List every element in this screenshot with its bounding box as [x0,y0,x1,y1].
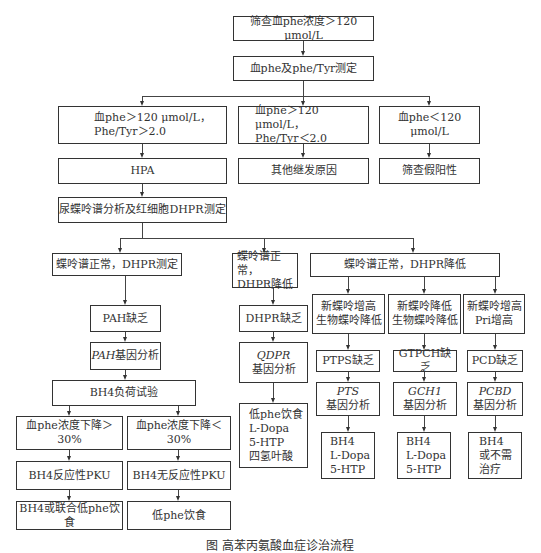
connector [348,333,349,345]
node-label: 新蝶呤降低 生物蝶呤降低 [392,300,458,328]
node-gch1-gene: GCH1基因分析 [393,382,457,416]
connector [413,238,414,248]
connector [348,276,349,289]
node-pcbd-gene: PCBD基因分析 [467,382,523,416]
node-label: BH4或联合低phe饮食 [17,502,122,530]
node-label: 筛查假阳性 [402,164,457,178]
connector [142,96,430,97]
node-qdpr-gene: QDPR基因分析 [239,342,308,383]
node-label: 新蝶呤增高 Pri增高 [467,300,522,328]
node-label: 血phe＞120 μmol/L， Phe/Tyr＞2.0 [94,111,211,139]
connector [273,382,274,398]
connector [142,183,143,192]
node-pterin-normal-dhpr-low: 蝶呤谱正常， DHPR降低 [232,253,298,288]
node-label: 基因分析 [403,399,447,413]
node-label: BH4 L-Dopa 5-HTP [330,435,370,477]
gene-name: PAH [92,349,116,363]
connector [424,333,425,345]
connector [142,143,143,153]
node-other-cause: 其他继发原因 [238,158,369,184]
connector [495,415,496,427]
node-sub-gtpch: 新蝶呤降低 生物蝶呤降低 [388,294,461,334]
node-pterin-dhpr: 尿蝶呤谱分析及红细胞DHPR测定 [58,197,227,223]
node-bh4-load: BH4负荷试验 [52,380,196,406]
gene-name: PTS [337,385,359,399]
node-treat-bh4-diet: BH4或联合低phe饮食 [16,501,123,530]
node-drop-lt30: 血phe浓度下降＜30% [127,416,231,450]
node-label: 低phe饮食 [152,509,206,523]
node-label: 其他继发原因 [271,164,337,178]
node-treat-ptps: BH4 L-Dopa 5-HTP [321,432,375,479]
node-label: PTPS缺乏 [322,354,374,368]
node-screening: 筛查血phe浓度＞120 μmol/L [233,16,374,41]
connector [495,333,496,345]
connector [429,143,430,153]
connector [120,238,414,239]
node-label: 蝶呤谱正常， DHPR降低 [237,250,297,292]
node-label: 血phe浓度下降＞30% [17,419,122,447]
node-hpa: HPA [58,158,227,184]
node-treat-pcd: BH4 或不需 治疗 [468,432,522,479]
node-label: 基因分析 [326,399,370,413]
node-bh4-nonresponsive: BH4无反应性PKU [127,461,231,490]
node-label: BH4负荷试验 [90,386,159,400]
node-label: 尿蝶呤谱分析及红细胞DHPR测定 [59,203,225,217]
node-sub-pcd: 新蝶呤增高 Pri增高 [463,294,525,334]
node-pah-def: PAH缺乏 [90,305,161,332]
gene-name: QDPR [257,349,291,363]
node-pterin-normal-dhpr-low-group: 蝶呤谱正常，DHPR降低 [310,253,500,277]
node-measure: 血phe及phe/Tyr测定 [233,56,374,81]
node-false-positive: 筛查假阳性 [379,158,480,184]
gene-name: GCH1 [408,385,442,399]
node-drop-gt30: 血phe浓度下降＞30% [16,416,123,450]
connector [125,275,126,300]
connector [264,238,265,248]
node-branch-a: 血phe＞120 μmol/L， Phe/Tyr＞2.0 [58,106,227,144]
node-label: HPA [131,164,155,178]
connector [495,276,496,289]
connector [178,449,179,456]
node-sub-ptps: 新蝶呤增高 生物蝶呤降低 [312,294,385,334]
node-pts-gene: PTS基因分析 [316,382,380,416]
node-gtpch-def: GTPCH缺乏 [393,350,457,372]
node-label: 蝶呤谱正常，DHPR测定 [56,258,178,272]
node-treat-low-diet: 低phe饮食 [127,501,231,530]
node-treat-gtpch: BH4 L-Dopa 5-HTP [397,432,451,479]
node-label: 血phe浓度下降＜30% [128,419,230,447]
node-pterin-normal-dhpr-test: 蝶呤谱正常，DHPR测定 [52,253,182,276]
node-label: 血phe及phe/Tyr测定 [250,62,358,76]
connector [348,415,349,427]
node-dhpr-treatment: 低phe饮食 L-Dopa 5-HTP 四氢叶酸 [239,403,308,468]
node-label: 基因分析 [252,363,296,377]
node-label: 血phe＞120 μmol/L， Phe/Tyr＜2.0 [255,104,368,146]
node-label: BH4 或不需 治疗 [479,435,512,477]
node-label: BH4 L-Dopa 5-HTP [406,435,446,477]
node-label: PCD缺乏 [472,354,519,368]
node-label: DHPR缺乏 [245,312,301,326]
node-label: 基因分析 [473,399,517,413]
connector [424,415,425,427]
node-pah-gene: PAH基因分析 [90,342,161,370]
connector [178,489,179,496]
node-label: PAH缺乏 [103,312,149,326]
node-branch-c: 血phe＜120 μmol/L [379,106,480,144]
node-label: GTPCH缺乏 [394,347,456,375]
connector [303,80,304,96]
connector [142,222,143,238]
gene-name: PCBD [479,385,512,399]
node-label: 新蝶呤增高 生物蝶呤降低 [316,300,382,328]
node-label: 低phe饮食 L-Dopa 5-HTP 四氢叶酸 [249,408,303,464]
node-label: 蝶呤谱正常，DHPR降低 [344,258,466,272]
node-label: 筛查血phe浓度＞120 μmol/L [234,15,373,43]
connector [120,238,121,248]
connector [69,449,70,456]
connector [69,489,70,496]
node-branch-b: 血phe＞120 μmol/L， Phe/Tyr＜2.0 [238,106,369,144]
node-label: 基因分析 [115,349,159,363]
node-pcd-def: PCD缺乏 [467,350,523,372]
figure-caption: 图 高苯丙氨酸血症诊治流程 [160,536,400,553]
node-dhpr-def: DHPR缺乏 [239,305,308,332]
node-label: BH4无反应性PKU [132,469,225,483]
node-label: BH4反应性PKU [28,469,110,483]
node-label: 血phe＜120 μmol/L [380,111,479,139]
